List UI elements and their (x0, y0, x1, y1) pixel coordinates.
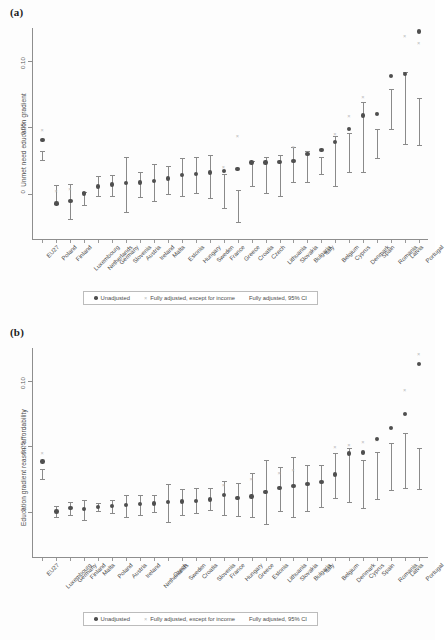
x-tick (307, 558, 308, 561)
confidence-interval-cap (333, 453, 338, 454)
filled-circle-icon (94, 617, 98, 621)
unadjusted-point (417, 362, 421, 366)
confidence-interval-bar (42, 151, 43, 160)
confidence-interval-cap (222, 208, 227, 209)
confidence-interval-cap (333, 498, 338, 499)
x-tick (419, 240, 420, 243)
x-tick (349, 558, 350, 561)
legend-label-fully-adjusted-ci: Fully adjusted, 95% CI (249, 616, 307, 622)
unadjusted-point (180, 499, 184, 503)
confidence-interval-bar (405, 433, 406, 488)
confidence-interval-bar (377, 452, 378, 499)
confidence-interval-cap (138, 495, 143, 496)
y-tick-label: 0.05 (25, 446, 26, 447)
confidence-interval-bar (238, 190, 239, 222)
x-tick (307, 240, 308, 243)
confidence-interval-bar (377, 129, 378, 158)
confidence-interval-cap (180, 515, 185, 516)
y-tick-label: 0 (25, 512, 26, 513)
confidence-interval-cap (152, 164, 157, 165)
confidence-interval-cap (194, 488, 199, 489)
confidence-interval-cap (236, 222, 241, 223)
confidence-interval-cap (124, 495, 129, 496)
confidence-interval-cap (375, 158, 380, 159)
unadjusted-point (235, 167, 239, 171)
unadjusted-point (124, 181, 128, 185)
confidence-interval-cap (236, 190, 241, 191)
x-tick (56, 240, 57, 243)
confidence-interval-cap (166, 194, 171, 195)
x-tick (280, 240, 281, 243)
unadjusted-point (347, 451, 351, 455)
confidence-interval-cap (152, 201, 157, 202)
y-tick (28, 61, 32, 62)
confidence-interval-cap (166, 522, 171, 523)
fully-adjusted-except-income-marker: × (403, 34, 406, 40)
confidence-interval-cap (54, 517, 59, 518)
x-tick (224, 240, 225, 243)
confidence-interval-cap (68, 502, 73, 503)
x-tick (349, 240, 350, 243)
panel-a: (a) Unmet need education gradient 00.050… (0, 0, 435, 320)
x-tick (210, 240, 211, 243)
confidence-interval-cap (417, 448, 422, 449)
y-tick (28, 512, 32, 513)
confidence-interval-cap (417, 98, 422, 99)
confidence-interval-bar (391, 89, 392, 129)
confidence-interval-cap (375, 499, 380, 500)
confidence-interval-cap (319, 157, 324, 158)
unadjusted-point (110, 182, 114, 186)
confidence-interval-cap (278, 155, 283, 156)
x-axis-category-label: Finland (75, 244, 93, 262)
x-mark-icon: × (144, 295, 147, 301)
confidence-interval-cap (236, 516, 241, 517)
x-tick (405, 558, 406, 561)
x-tick (335, 240, 336, 243)
panel-a-legend: Unadjusted × Fully adjusted, except for … (83, 291, 318, 305)
fully-adjusted-except-income-marker: × (417, 41, 420, 47)
confidence-interval-cap (96, 503, 101, 504)
unadjusted-point (54, 201, 58, 205)
unadjusted-point (166, 176, 170, 180)
confidence-interval-cap (208, 488, 213, 489)
unadjusted-point (263, 160, 267, 164)
x-tick (321, 240, 322, 243)
unadjusted-point (389, 74, 393, 78)
confidence-interval-cap (152, 512, 157, 513)
confidence-interval-cap (403, 433, 408, 434)
fully-adjusted-except-income-marker: × (417, 352, 420, 358)
unadjusted-point (361, 113, 365, 117)
confidence-interval-cap (291, 182, 296, 183)
panel-b: (b) Education gradient reason: affordabi… (0, 320, 435, 640)
confidence-interval-cap (138, 515, 143, 516)
y-tick-label: 0.10 (25, 61, 26, 62)
fully-adjusted-except-income-marker: × (361, 95, 364, 101)
confidence-interval-cap (54, 185, 59, 186)
x-tick (126, 558, 127, 561)
confidence-interval-cap (208, 198, 213, 199)
confidence-interval-cap (96, 196, 101, 197)
unadjusted-point (347, 127, 351, 131)
fully-adjusted-except-income-marker: × (222, 483, 225, 489)
x-tick (42, 558, 43, 561)
confidence-interval-cap (236, 483, 241, 484)
confidence-interval-cap (305, 182, 310, 183)
x-tick (112, 240, 113, 243)
confidence-interval-cap (264, 157, 269, 158)
y-tick (28, 381, 32, 382)
panel-b-x-axis (32, 557, 428, 558)
unadjusted-point (361, 450, 365, 454)
unadjusted-point (417, 29, 421, 33)
unadjusted-point (82, 507, 86, 511)
unadjusted-point (277, 486, 281, 490)
confidence-interval-cap (264, 460, 269, 461)
confidence-interval-cap (222, 515, 227, 516)
fully-adjusted-except-income-marker: × (347, 443, 350, 449)
x-tick (419, 558, 420, 561)
confidence-interval-cap (110, 500, 115, 501)
confidence-interval-cap (333, 186, 338, 187)
confidence-interval-cap (124, 212, 129, 213)
confidence-interval-cap (138, 197, 143, 198)
confidence-interval-bar (363, 460, 364, 508)
